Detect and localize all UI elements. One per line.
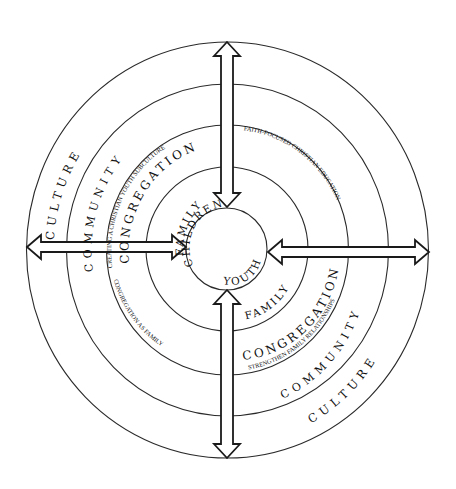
concentric-influence-diagram: CULTURE CULTURE COMMUNITY COMMUNITY CONG…	[0, 0, 456, 489]
children-label: CHILDREN	[179, 197, 225, 269]
bottom-double-arrow-icon	[214, 290, 240, 458]
family-label-lower-right: FAMILY	[243, 281, 291, 321]
youth-label: YOUTH	[222, 256, 264, 287]
faith-focused-education-label: FAITH-FOCUSED CHRISTIAN EDUCATION	[244, 124, 343, 201]
culture-label-upper-left: CULTURE	[43, 145, 85, 240]
top-double-arrow-icon	[214, 42, 240, 207]
congregation-as-family-label: CONGREGATION AS FAMILY	[113, 278, 166, 347]
